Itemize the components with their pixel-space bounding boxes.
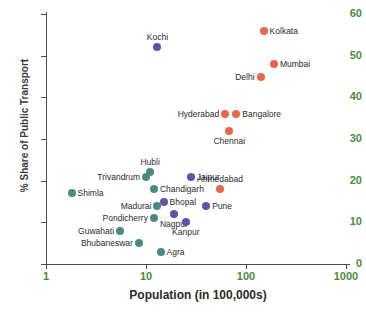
y-tick-label: 10 <box>326 216 362 227</box>
y-tick <box>41 56 47 57</box>
y-tick <box>41 181 47 182</box>
y-tick-label: 0 <box>326 258 362 269</box>
y-tick-label: 60 <box>326 8 362 19</box>
data-point-label: Trivandrum <box>97 172 140 181</box>
data-point[interactable] <box>157 248 165 256</box>
x-tick-label: 1 <box>26 271 66 282</box>
data-point-label: Shimla <box>78 189 104 198</box>
data-point[interactable] <box>270 60 278 68</box>
data-point-label: Chandigarh <box>160 185 204 194</box>
y-tick-label: 50 <box>326 50 362 61</box>
data-point[interactable] <box>260 27 268 35</box>
x-axis-line <box>46 264 350 265</box>
data-point[interactable] <box>187 173 195 181</box>
x-axis-title: Population (in 100,000s) <box>46 288 350 302</box>
y-tick <box>41 14 47 15</box>
data-point[interactable] <box>170 210 178 218</box>
data-point-label: Guwahati <box>78 226 114 235</box>
data-point-label: Pune <box>212 201 232 210</box>
x-tick <box>46 264 47 269</box>
x-tick <box>246 264 247 269</box>
data-point-label: Agra <box>167 247 185 256</box>
y-tick <box>41 97 47 98</box>
data-point-label: Kolkata <box>270 26 298 35</box>
x-tick <box>346 264 347 269</box>
data-point[interactable] <box>216 185 224 193</box>
data-point-label: Hyderabad <box>178 110 220 119</box>
data-point[interactable] <box>142 173 150 181</box>
data-point-label: Mumbai <box>280 60 310 69</box>
data-point-label: Bangalore <box>242 110 281 119</box>
data-point[interactable] <box>116 227 124 235</box>
y-tick-label: 40 <box>326 91 362 102</box>
data-point-label: Kanpur <box>172 228 199 237</box>
data-point-label: Bhubaneswar <box>81 239 133 248</box>
data-point[interactable] <box>135 239 143 247</box>
data-point[interactable] <box>150 185 158 193</box>
y-tick-label: 30 <box>326 133 362 144</box>
data-point[interactable] <box>153 202 161 210</box>
data-point-label: Bhopal <box>170 197 196 206</box>
y-axis-title: % Share of Public Transport <box>19 36 30 216</box>
data-point[interactable] <box>68 189 76 197</box>
y-tick <box>41 139 47 140</box>
data-point-label: Ahmedabad <box>197 175 243 184</box>
data-point-label: Kochi <box>147 33 168 42</box>
x-tick-label: 1000 <box>326 271 366 282</box>
data-point[interactable] <box>182 218 190 226</box>
data-point[interactable] <box>225 127 233 135</box>
x-tick-label: 100 <box>226 271 266 282</box>
data-point[interactable] <box>221 110 229 118</box>
y-tick-label: 20 <box>326 175 362 186</box>
data-point[interactable] <box>257 73 265 81</box>
data-point-label: Hubli <box>140 158 159 167</box>
x-tick <box>146 264 147 269</box>
data-point-label: Pondicherry <box>103 214 148 223</box>
y-tick <box>41 222 47 223</box>
data-point[interactable] <box>202 202 210 210</box>
data-point[interactable] <box>153 43 161 51</box>
data-point-label: Madurai <box>121 201 152 210</box>
data-point-label: Delhi <box>235 72 254 81</box>
data-point[interactable] <box>150 214 158 222</box>
data-point[interactable] <box>232 110 240 118</box>
x-tick-label: 10 <box>126 271 166 282</box>
data-point-label: Chennai <box>213 137 245 146</box>
